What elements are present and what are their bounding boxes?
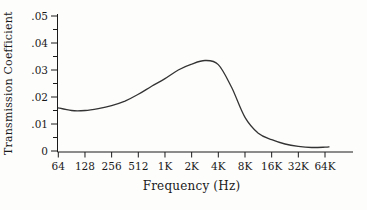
chart: Transmission Coefficient .05.04.03.02.01… [0,0,367,210]
y-tick-label: .02 [31,91,48,103]
x-tick-label: 8K [238,160,253,172]
x-tick-label: 512 [128,160,148,172]
x-tick-label: 16K [261,160,282,172]
y-tick-label: .01 [31,118,48,130]
x-tick-label: 2K [184,160,199,172]
y-tick-label: .03 [31,64,48,76]
x-tick-label: 32K [288,160,309,172]
axis-lines [58,14,354,152]
x-tick-label: 64 [52,160,66,172]
x-axis-title: Frequency (Hz) [58,179,325,193]
x-tick-label: 256 [102,160,122,172]
y-tick-label: 0 [41,145,48,157]
series-line [58,61,329,148]
y-tick-label: .04 [31,37,48,49]
x-tick-label: 128 [75,160,95,172]
x-tick-label: 1K [158,160,173,172]
y-tick-label: .05 [31,10,48,22]
x-tick-label: 64K [314,160,335,172]
x-tick-label: 4K [211,160,226,172]
